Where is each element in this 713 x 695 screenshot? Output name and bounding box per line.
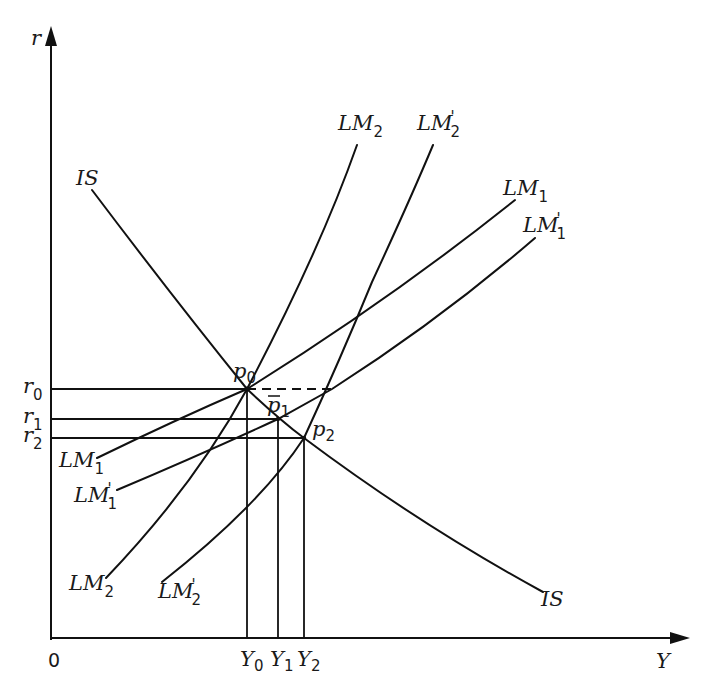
y-axis-label: Y <box>656 649 672 673</box>
y2-label: Y2 <box>297 647 320 675</box>
is-label-bottom: IS <box>540 587 564 611</box>
r0-label: r0 <box>23 374 43 404</box>
interest-labels: r0 r1 r2 <box>23 374 43 453</box>
output-labels: Y0 Y1 Y2 <box>240 647 320 675</box>
lm2-prime-label-top: LM'2 <box>416 108 460 141</box>
lm2-curve <box>106 145 357 578</box>
lm1-prime-label-top: LM'1 <box>522 210 566 243</box>
p0-point <box>244 386 249 391</box>
lm2-prime-label-bottom: LM'2 <box>157 576 201 609</box>
p2-point <box>302 436 306 440</box>
output-guides <box>247 389 304 638</box>
lm1-label-top: LM1 <box>502 176 548 206</box>
lm1-prime-label-bottom: LM'1 <box>73 480 117 513</box>
r-axis-label: r <box>31 26 43 50</box>
curve-labels: IS IS LM2 LM'2 LM1 LM'1 LM1 LM'1 LM2 LM'… <box>58 108 566 611</box>
y0-label: Y0 <box>240 647 263 675</box>
p1-label: p1 <box>267 393 290 421</box>
lm1-prime-curve <box>117 238 535 490</box>
r-axis-arrow-icon <box>45 26 57 46</box>
is-label-top: IS <box>75 166 99 190</box>
lm2-prime-curve <box>162 145 433 582</box>
lm1-label-bottom: LM1 <box>58 448 104 478</box>
origin-label: 0 <box>48 649 60 671</box>
p0-label: p0 <box>233 359 256 387</box>
lm2-label-top: LM2 <box>337 111 383 141</box>
y-axis-arrow-icon <box>670 632 690 644</box>
p2-label: p2 <box>312 417 335 445</box>
y1-label: Y1 <box>270 647 293 675</box>
is-curve <box>92 190 543 592</box>
is-lm-diagram: r Y 0 IS IS LM2 LM'2 LM1 LM'1 <box>0 0 713 695</box>
